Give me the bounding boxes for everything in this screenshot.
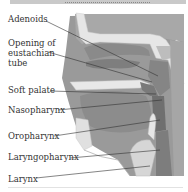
label-laryngopharynx: Laryngopharynx — [8, 152, 79, 162]
label-eustachian-line3: tube — [8, 58, 27, 68]
bottom-divider — [8, 187, 183, 188]
label-nasopharynx: Nasopharynx — [8, 105, 65, 115]
label-oropharynx: Oropharynx — [8, 131, 59, 141]
label-soft-palate: Soft palate — [8, 85, 55, 95]
tongue — [80, 91, 151, 132]
pharynx-anatomy-illustration — [0, 0, 188, 192]
label-adenoids: Adenoids — [8, 14, 48, 24]
label-eustachian-line1: Opening of — [8, 38, 56, 48]
label-eustachian-line2: eustachian — [8, 48, 55, 58]
label-larynx: Larynx — [8, 174, 38, 184]
